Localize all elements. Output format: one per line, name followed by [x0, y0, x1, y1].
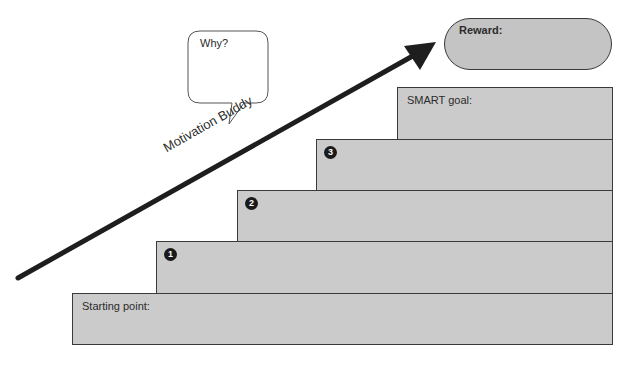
starting-point-label: Starting point:	[82, 300, 150, 312]
reward-label: Reward:	[459, 24, 502, 36]
step-number-1-icon: 1	[164, 248, 177, 261]
step-number-2-icon: 2	[245, 197, 258, 210]
step-1[interactable]: 1	[156, 241, 613, 294]
smart-goal-label: SMART goal:	[407, 94, 472, 106]
reward-box[interactable]: Reward:	[444, 18, 612, 70]
speech-bubble-text: Why?	[200, 37, 228, 49]
step-2[interactable]: 2	[237, 190, 613, 242]
step-3[interactable]: 3	[316, 139, 613, 191]
step-number-3-icon: 3	[324, 146, 337, 159]
step-starting-point[interactable]: Starting point:	[72, 293, 613, 345]
step-smart-goal[interactable]: SMART goal:	[397, 87, 613, 140]
